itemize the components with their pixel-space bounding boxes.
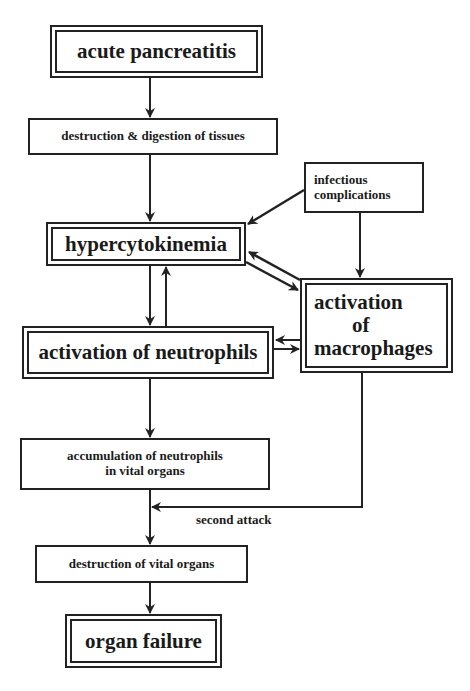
- node-infectious-complications: infectious complications: [304, 162, 424, 213]
- node-accumulation-neutrophils: accumulation of neutrophils in vital org…: [20, 438, 270, 490]
- node-label: destruction & digestion of tissues: [61, 129, 244, 144]
- node-label-line1: activation: [314, 291, 403, 314]
- node-activation-neutrophils: activation of neutrophils: [22, 326, 274, 379]
- node-label-line1: accumulation of neutrophils: [67, 449, 223, 464]
- node-label: destruction of vital organs: [69, 557, 215, 572]
- node-label: acute pancreatitis: [77, 39, 236, 63]
- node-label-line3: macrophages: [314, 337, 433, 360]
- node-activation-macrophages: activation of macrophages: [300, 278, 453, 373]
- edge-label-second-attack: second attack: [196, 512, 271, 528]
- node-acute-pancreatitis: acute pancreatitis: [50, 25, 263, 78]
- node-label-line2: of: [314, 314, 370, 337]
- node-destruction-vital-organs: destruction of vital organs: [35, 545, 248, 583]
- node-hypercytokinemia: hypercytokinemia: [46, 222, 246, 266]
- node-label: activation of neutrophils: [39, 340, 258, 364]
- node-destruction-digestion: destruction & digestion of tissues: [28, 118, 278, 155]
- node-label: organ failure: [85, 629, 202, 653]
- node-label-line2: complications: [314, 188, 391, 203]
- node-organ-failure: organ failure: [65, 614, 222, 668]
- node-label-line1: infectious: [314, 173, 367, 188]
- node-label-line2: in vital organs: [105, 464, 184, 479]
- node-label: hypercytokinemia: [65, 232, 227, 256]
